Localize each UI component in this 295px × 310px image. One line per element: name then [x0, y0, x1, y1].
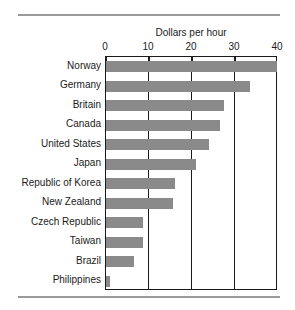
bar: [106, 256, 134, 267]
x-tick-label: 0: [102, 41, 108, 53]
y-category-label: Germany: [0, 79, 101, 91]
y-category-label: Japan: [0, 157, 101, 169]
y-category-label: Philippines: [0, 274, 101, 286]
x-tick-label: 30: [228, 41, 239, 53]
y-category-label: Norway: [0, 60, 101, 72]
x-tick-mark: [276, 56, 277, 61]
bar: [106, 120, 220, 131]
chart-title: Dollars per hour: [105, 27, 277, 39]
bar: [106, 237, 143, 248]
bar: [106, 198, 173, 209]
chart-figure: Dollars per hour 010203040 NorwayGermany…: [0, 0, 295, 310]
y-category-label: New Zealand: [0, 196, 101, 208]
y-category-label: Canada: [0, 118, 101, 130]
y-category-label: Taiwan: [0, 235, 101, 247]
bar: [106, 276, 110, 287]
bar: [106, 61, 277, 72]
y-category-label: Brazil: [0, 255, 101, 267]
bars-group: [106, 57, 276, 289]
plot-area: [105, 56, 277, 290]
bar: [106, 81, 250, 92]
bar: [106, 217, 143, 228]
y-category-label: United States: [0, 138, 101, 150]
y-category-label: Czech Republic: [0, 216, 101, 228]
bar: [106, 139, 209, 150]
y-category-label: Republic of Korea: [0, 177, 101, 189]
x-tick-label: 40: [271, 41, 282, 53]
bar: [106, 159, 196, 170]
x-axis-tick-labels: 010203040: [0, 41, 295, 54]
y-axis-category-labels: NorwayGermanyBritainCanadaUnited StatesJ…: [0, 56, 101, 290]
bottom-divider-rule: [18, 296, 280, 298]
bar: [106, 178, 175, 189]
x-tick-label: 20: [185, 41, 196, 53]
y-category-label: Britain: [0, 99, 101, 111]
bar: [106, 100, 224, 111]
x-tick-label: 10: [142, 41, 153, 53]
top-divider-rule: [18, 14, 280, 16]
